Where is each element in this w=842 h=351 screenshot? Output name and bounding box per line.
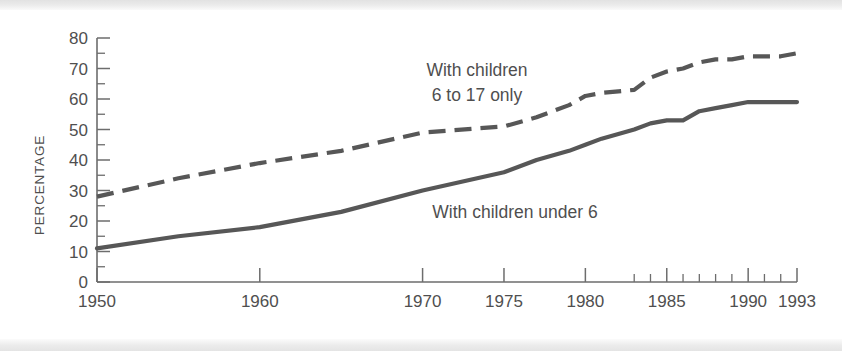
chart-canvas: 01020304050607080 1950196019701975198019… (0, 0, 842, 351)
y-tick-label: 50 (69, 121, 88, 140)
x-tick-label: 1960 (241, 292, 279, 311)
x-tick-labels: 19501960197019751980198519901993 (78, 292, 816, 311)
y-tick-label: 40 (69, 151, 88, 170)
annotation-6-to-17-line2: 6 to 17 only (432, 85, 523, 105)
x-tick-label: 1985 (648, 292, 686, 311)
annotation-6-to-17-line1: With children (426, 60, 527, 80)
x-tick-label: 1990 (729, 292, 767, 311)
y-tick-label: 0 (79, 273, 88, 292)
x-tick-label: 1975 (485, 292, 523, 311)
y-tick-label: 10 (69, 243, 88, 262)
x-tick-label: 1993 (778, 292, 816, 311)
scanned-page: 01020304050607080 1950196019701975198019… (0, 0, 842, 351)
x-tick-label: 1970 (404, 292, 442, 311)
y-tick-label: 80 (69, 29, 88, 48)
x-tick-label: 1980 (566, 292, 604, 311)
y-tick-label: 30 (69, 182, 88, 201)
y-tick-label: 60 (69, 90, 88, 109)
y-tick-labels: 01020304050607080 (69, 29, 88, 292)
line-chart: 01020304050607080 1950196019701975198019… (0, 0, 842, 351)
x-axis (97, 268, 797, 282)
y-tick-label: 70 (69, 60, 88, 79)
annotation-under-6: With children under 6 (432, 202, 597, 222)
y-tick-label: 20 (69, 212, 88, 231)
y-axis-title: PERCENTAGE (32, 135, 47, 235)
x-tick-label: 1950 (78, 292, 116, 311)
